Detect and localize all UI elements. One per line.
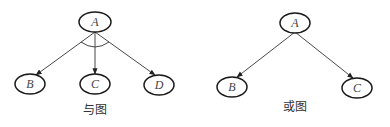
edge-a-b xyxy=(237,32,295,77)
edge-a-c xyxy=(295,32,353,78)
node-a: A xyxy=(79,12,111,32)
edge-a-d xyxy=(95,32,155,75)
node-c-label: C xyxy=(353,81,362,95)
node-b: B xyxy=(15,74,45,94)
node-c: C xyxy=(342,78,372,98)
node-c-label: C xyxy=(91,77,100,91)
or-graph: A B C 或图 xyxy=(217,13,372,114)
and-graph-caption: 与图 xyxy=(83,103,107,117)
node-d-label: D xyxy=(154,78,164,92)
node-b-label: B xyxy=(228,80,236,94)
node-a-label: A xyxy=(90,15,99,29)
node-d: D xyxy=(144,75,174,95)
or-graph-caption: 或图 xyxy=(283,100,307,114)
diagram-canvas: A B C D 与图 A B C 或图 xyxy=(0,0,390,127)
node-c: C xyxy=(80,74,110,94)
and-graph: A B C D 与图 xyxy=(15,12,174,117)
node-a: A xyxy=(280,13,310,33)
node-b: B xyxy=(217,77,247,97)
edge-a-b xyxy=(36,32,95,75)
node-a-label: A xyxy=(290,16,299,30)
node-b-label: B xyxy=(26,77,34,91)
